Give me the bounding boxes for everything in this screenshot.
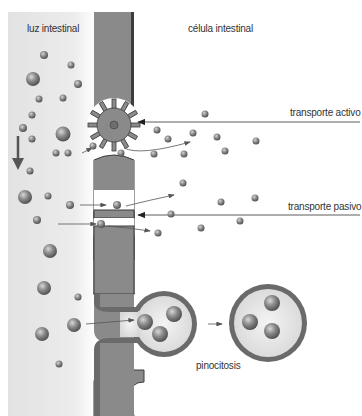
cell-particles: [151, 111, 260, 237]
free-vesicle: [229, 284, 307, 362]
label-pinocytosis: pinocitosis: [196, 360, 241, 371]
intestinal-lumen-region: [8, 12, 96, 416]
label-active-transport: transporte activo: [290, 107, 361, 118]
diagram-stage: luz intestinal célula intestinal transpo…: [0, 0, 362, 416]
budding-vesicle: [94, 291, 197, 416]
label-passive-transport: transporte pasivo: [288, 201, 361, 212]
label-lumen: luz intestinal: [27, 23, 79, 34]
passive-channel-bar: [94, 210, 134, 218]
label-cell: célula intestinal: [188, 23, 253, 34]
